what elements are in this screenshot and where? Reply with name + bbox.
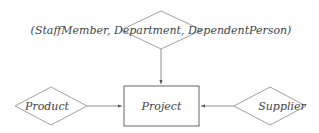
relationship-label: Supplier (258, 100, 306, 113)
er-diagram: (StaffMember, Department, DependentPerso… (0, 0, 319, 133)
relationship-supplier: Supplier (234, 87, 306, 125)
entity-label: Project (141, 100, 182, 113)
relationship-staff-department-dependent: (StaffMember, Department, DependentPerso… (31, 11, 292, 49)
relationship-product: Product (15, 87, 87, 125)
relationship-label: Product (24, 100, 70, 113)
relationship-label: (StaffMember, Department, DependentPerso… (31, 24, 292, 37)
entity-project: Project (124, 86, 199, 126)
